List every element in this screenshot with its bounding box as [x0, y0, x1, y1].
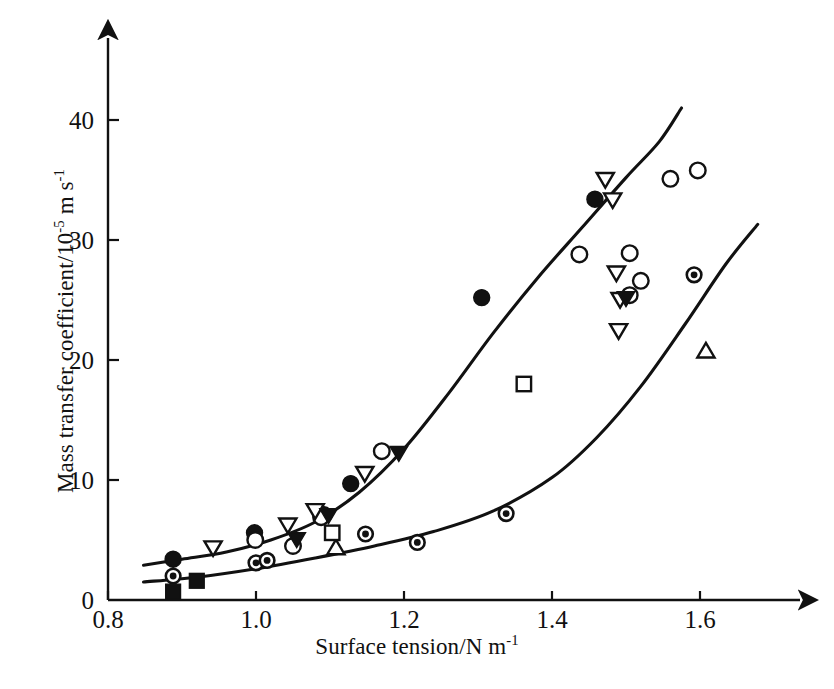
data-point-open-square	[325, 526, 339, 540]
x-tick-label: 1.2	[388, 606, 419, 633]
x-tick-label: 1.0	[240, 606, 271, 633]
scatter-plot: 0.81.01.21.41.6 010203040	[0, 0, 834, 689]
data-point-filled-circle	[474, 290, 490, 306]
data-point-open-circle	[572, 247, 588, 263]
lower-trend-curve	[144, 224, 758, 582]
figure-container: 0.81.01.21.41.6 010203040 Surface tensio…	[0, 0, 834, 689]
data-point-open-down-triangle	[356, 467, 373, 482]
data-point-open-down-triangle	[610, 324, 627, 339]
y-tick-label: 0	[82, 587, 95, 614]
y-axis-title-exponent-2: -1	[51, 169, 67, 181]
x-axis-title: Surface tension/N m-1	[0, 634, 834, 660]
data-point-circled-dot	[410, 535, 425, 550]
data-point-filled-square	[189, 573, 204, 588]
data-point-open-circle	[690, 163, 706, 179]
x-tick-label: 1.6	[684, 606, 715, 633]
data-point-open-circle	[247, 532, 263, 548]
data-point-circled-dot	[358, 527, 373, 542]
data-point-open-down-triangle	[608, 267, 625, 282]
data-point-circled-dot	[166, 569, 181, 584]
data-point-circled-dot	[260, 553, 275, 568]
axes	[108, 38, 800, 600]
data-point-circled-dot	[687, 268, 702, 283]
y-axis-title-exponent-1: -5	[51, 220, 67, 232]
data-point-open-square	[517, 377, 531, 391]
data-point-open-circle	[374, 443, 390, 459]
data-point-open-up-triangle	[327, 540, 344, 555]
x-axis-title-exponent: -1	[506, 632, 518, 648]
data-point-filled-square	[166, 584, 181, 599]
data-point-filled-circle	[343, 476, 359, 492]
data-point-open-up-triangle	[697, 343, 714, 358]
data-point-filled-circle	[587, 191, 603, 207]
y-axis-title: Mass transfer coefficient/10-5 m s-1	[53, 51, 79, 611]
data-point-circled-dot	[499, 506, 514, 521]
data-point-filled-circle	[165, 551, 181, 567]
y-axis-title-mid: m s	[53, 181, 78, 220]
data-point-open-circle	[633, 273, 649, 289]
x-axis-title-text: Surface tension/N m	[315, 634, 506, 659]
x-tick-label: 1.4	[536, 606, 568, 633]
x-axis-ticks: 0.81.01.21.41.6	[92, 591, 715, 633]
data-point-open-circle	[622, 245, 638, 261]
data-points	[165, 163, 714, 599]
x-tick-label: 0.8	[92, 606, 123, 633]
y-axis-title-text: Mass transfer coefficient/10	[53, 233, 78, 493]
data-point-open-down-triangle	[597, 173, 614, 188]
data-point-open-circle	[663, 171, 679, 187]
